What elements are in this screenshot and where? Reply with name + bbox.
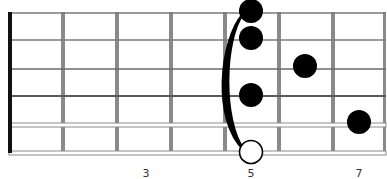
- fret-line-6: [331, 12, 335, 153]
- fret-label-5: 5: [248, 167, 255, 179]
- note-dot-string4-fret5: [239, 83, 263, 107]
- nut: [8, 12, 12, 153]
- fret-line-5: [277, 12, 281, 153]
- string-6: [9, 151, 386, 155]
- fret-line-3: [169, 12, 173, 153]
- fret-labels: 3 5 7: [143, 167, 363, 179]
- fret-line-2: [115, 12, 119, 153]
- note-dot-string3-fret6: [293, 54, 317, 78]
- note-dots: [239, 0, 371, 164]
- string-5: [9, 123, 386, 127]
- fret-line-1: [61, 12, 65, 153]
- fret-line-7: [383, 12, 386, 153]
- note-dot-string1-fret5: [239, 0, 263, 23]
- note-dot-string5-fret7: [347, 110, 371, 134]
- fret-label-3: 3: [143, 167, 150, 179]
- strings: [9, 13, 386, 155]
- fret-label-7: 7: [356, 167, 363, 179]
- open-note-circle-string6-fret5: [240, 141, 263, 164]
- note-dot-string2-fret5: [239, 26, 263, 50]
- chord-diagram: 3 5 7: [0, 0, 387, 179]
